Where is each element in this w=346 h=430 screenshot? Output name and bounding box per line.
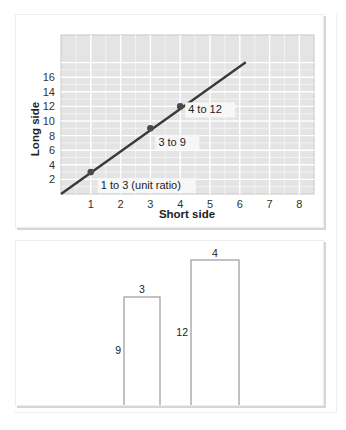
rect1-height-label: 9 bbox=[115, 344, 121, 356]
y-axis-label: Long side bbox=[29, 102, 41, 156]
rect2-width-label: 4 bbox=[212, 247, 218, 259]
x-axis-label: Short side bbox=[159, 208, 215, 220]
data-point-marker bbox=[177, 103, 184, 110]
x-tick-label: 1 bbox=[88, 198, 94, 210]
x-tick-label: 7 bbox=[267, 198, 273, 210]
y-tick-label: 2 bbox=[49, 173, 55, 185]
y-tick-label: 16 bbox=[43, 71, 55, 83]
x-tick-label: 2 bbox=[118, 198, 124, 210]
y-tick-label: 14 bbox=[43, 86, 55, 98]
y-tick-label: 6 bbox=[49, 144, 55, 156]
y-axis-ticks: 246810121416 bbox=[43, 71, 55, 185]
y-tick-label: 10 bbox=[43, 115, 55, 127]
y-tick-label: 12 bbox=[43, 100, 55, 112]
point-label: 4 to 12 bbox=[188, 103, 222, 115]
ratio-chart-panel: 246810121416 12345678 Long side Short si… bbox=[15, 14, 324, 228]
rectangle-4-by-12 bbox=[191, 260, 239, 405]
y-tick-label: 4 bbox=[49, 159, 55, 171]
rectangle-3-by-9 bbox=[124, 297, 160, 405]
data-point-marker bbox=[147, 125, 154, 132]
x-tick-label: 6 bbox=[237, 198, 243, 210]
rect1-width-label: 3 bbox=[139, 283, 145, 295]
point-label: 1 to 3 (unit ratio) bbox=[101, 179, 181, 191]
x-tick-label: 3 bbox=[147, 198, 153, 210]
x-tick-label: 8 bbox=[296, 198, 302, 210]
rect2-height-label: 12 bbox=[176, 326, 188, 338]
rectangles-diagram: 3 9 4 12 bbox=[16, 241, 323, 405]
y-tick-label: 8 bbox=[49, 130, 55, 142]
rectangles-panel: 3 9 4 12 bbox=[15, 240, 324, 406]
point-label: 3 to 9 bbox=[158, 136, 186, 148]
data-point-marker bbox=[88, 169, 95, 176]
ratio-chart: 246810121416 12345678 Long side Short si… bbox=[16, 15, 323, 227]
